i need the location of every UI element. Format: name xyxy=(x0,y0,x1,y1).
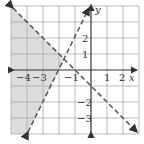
y-tick-label: −3 xyxy=(77,113,92,124)
x-tick-label: 1 xyxy=(104,72,110,83)
x-tick-label: −4 xyxy=(16,72,31,83)
y-tick-label: 1 xyxy=(82,49,88,60)
x-tick-label: 2 xyxy=(119,72,125,83)
x-tick-label: −3 xyxy=(32,72,47,83)
y-tick-label: 2 xyxy=(82,33,88,44)
y-tick-label: −2 xyxy=(77,97,92,108)
x-tick-label: −1 xyxy=(64,72,79,83)
y-axis-label: y xyxy=(94,4,101,15)
inequality-graph: x y −4 −3 −1 1 2 2 1 −2 −3 xyxy=(0,0,144,144)
x-axis-label: x xyxy=(129,72,135,83)
